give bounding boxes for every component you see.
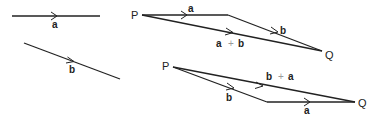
resultant-left-label: b <box>266 71 272 82</box>
resultant-right-label: a <box>288 71 294 82</box>
point-p-label: P <box>131 9 138 21</box>
plus-sign: + <box>278 71 284 82</box>
resultant-right-label: b <box>238 38 244 49</box>
point-p-label: P <box>162 60 169 72</box>
side-a-label: a <box>188 3 194 14</box>
resultant-left-label: a <box>216 38 222 49</box>
vector-b: b <box>24 43 120 79</box>
point-q-label: Q <box>325 49 334 61</box>
vector-a-label: a <box>52 19 58 30</box>
side-a-label: a <box>304 105 310 116</box>
triangle-b-plus-a: P b a b + a Q <box>162 60 367 116</box>
point-q-label: Q <box>358 97 367 109</box>
vector-addition-diagram: a b P a b a + b Q P b a b + a Q <box>0 0 375 120</box>
plus-sign: + <box>228 38 234 49</box>
vector-a: a <box>12 12 100 30</box>
triangle-a-plus-b: P a b a + b Q <box>131 3 334 61</box>
vector-b-label: b <box>69 64 75 75</box>
arrow-icon <box>270 27 278 34</box>
side-b-label: b <box>226 92 232 103</box>
side-b-label: b <box>280 25 286 36</box>
